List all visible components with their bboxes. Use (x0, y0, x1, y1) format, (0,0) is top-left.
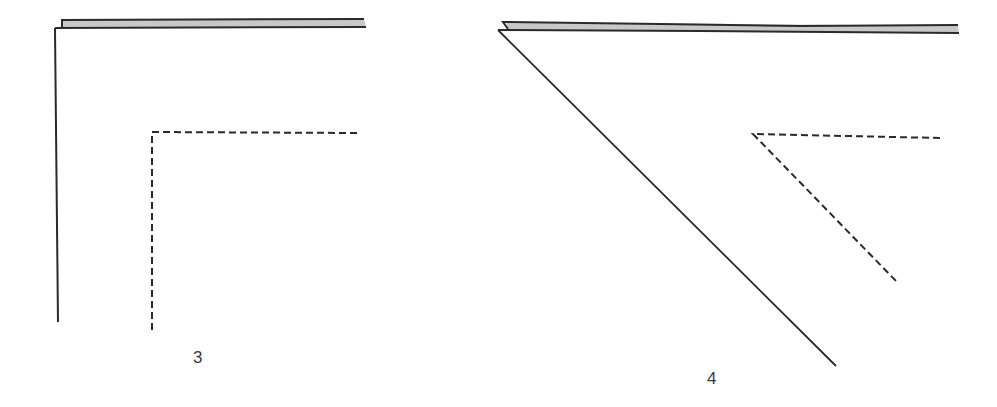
figure-3 (55, 19, 366, 334)
fig3-dashed-fold-line (152, 132, 357, 334)
fig4-dashed-fold-line (753, 134, 940, 282)
fig4-solid-diagonal-edge (498, 30, 836, 366)
fig3-solid-edge (55, 28, 58, 322)
figure-4-label: 4 (707, 370, 716, 387)
fig3-band-bottom-edge (55, 27, 366, 28)
figure-4 (498, 22, 959, 366)
figure-3-label: 3 (193, 349, 202, 366)
fold-diagrams (0, 0, 997, 407)
